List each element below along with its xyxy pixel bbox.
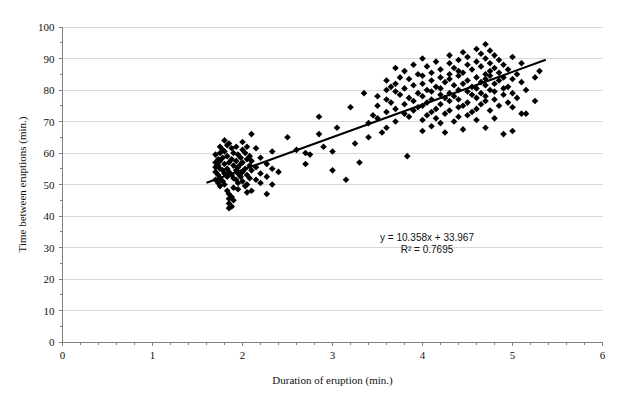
x-tick-label-3: 3: [330, 349, 336, 361]
y-tick-label-100: 100: [38, 21, 55, 33]
x-tick-label-0: 0: [60, 349, 66, 361]
y-axis-title: Time between eruptions (min.): [16, 116, 29, 252]
x-axis-title: Duration of eruption (min.): [272, 374, 393, 387]
trendline-r2-label: R² = 0.7695: [401, 244, 454, 255]
trendline-equation-label: y = 10.358x + 33.967: [380, 232, 474, 243]
y-tick-label-50: 50: [44, 179, 56, 191]
y-tick-label-10: 10: [44, 305, 56, 317]
y-tick-label-60: 60: [44, 147, 56, 159]
y-tick-label-80: 80: [44, 84, 56, 96]
x-tick-label-6: 6: [600, 349, 606, 361]
chart-figure: 0102030405060708090100 0123456 y = 10.35…: [0, 0, 633, 401]
y-tick-label-40: 40: [44, 210, 56, 222]
y-tick-label-30: 30: [44, 242, 56, 254]
figure-background: [0, 0, 633, 401]
y-tick-label-70: 70: [44, 116, 56, 128]
y-tick-label-0: 0: [49, 336, 55, 348]
y-tick-label-20: 20: [44, 273, 56, 285]
x-tick-label-1: 1: [150, 349, 156, 361]
x-tick-label-2: 2: [240, 349, 246, 361]
x-tick-label-4: 4: [420, 349, 426, 361]
y-tick-label-90: 90: [44, 53, 56, 65]
scatter-plot: 0102030405060708090100 0123456 y = 10.35…: [0, 0, 633, 401]
x-tick-label-5: 5: [510, 349, 516, 361]
